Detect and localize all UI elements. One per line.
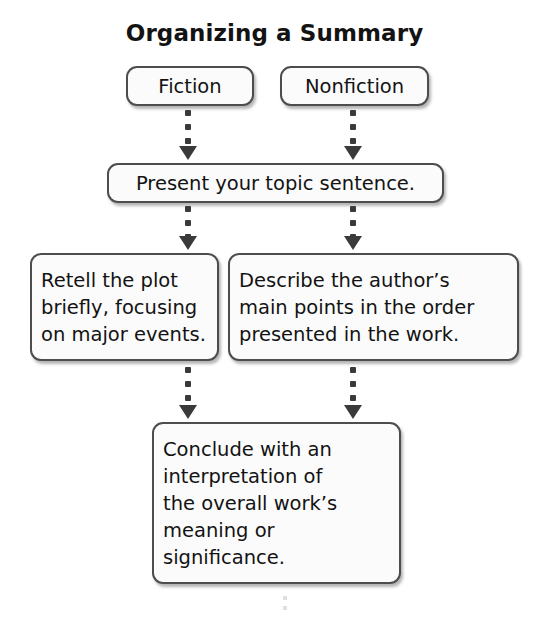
connector-dots	[350, 367, 356, 409]
connector-nonfiction-to-topic	[344, 110, 362, 160]
arrowhead-down-icon	[179, 236, 197, 250]
arrowhead-down-icon	[179, 405, 197, 419]
node-nonfiction: Nonfiction	[280, 66, 429, 106]
node-fiction: Fiction	[126, 66, 254, 106]
node-fiction-label: Fiction	[128, 73, 252, 100]
connector-dot	[185, 138, 191, 144]
connector-describe-to-conclude	[344, 367, 362, 419]
connector-dot	[185, 220, 191, 226]
connector-dot	[350, 110, 356, 116]
arrowhead-down-icon	[344, 236, 362, 250]
connector-dots	[185, 367, 191, 409]
page-title: Organizing a Summary	[0, 20, 549, 46]
connector-dot	[350, 367, 356, 373]
node-conclude: Conclude with an interpretation of the o…	[152, 422, 401, 584]
connector-dot	[350, 124, 356, 130]
node-conclude-label: Conclude with an interpretation of the o…	[154, 436, 346, 571]
connector-dot	[350, 395, 356, 401]
node-topic-sentence-label: Present your topic sentence.	[109, 170, 442, 197]
connector-topic-to-describe	[344, 206, 362, 250]
node-retell-plot-label: Retell the plot briefly, focusing on maj…	[32, 267, 215, 348]
connector-dot	[350, 381, 356, 387]
connector-dot	[350, 206, 356, 212]
node-retell-plot: Retell the plot briefly, focusing on maj…	[30, 253, 219, 361]
node-describe-main-points-label: Describe the author’s main points in the…	[230, 267, 483, 348]
arrowhead-down-icon	[344, 146, 362, 160]
connector-dot	[185, 206, 191, 212]
connector-topic-to-retell	[179, 206, 197, 250]
arrowhead-down-icon	[179, 146, 197, 160]
node-nonfiction-label: Nonfiction	[282, 73, 427, 100]
connector-fiction-to-topic	[179, 110, 197, 160]
connector-dot	[185, 395, 191, 401]
node-describe-main-points: Describe the author’s main points in the…	[228, 253, 519, 361]
arrowhead-down-icon	[344, 405, 362, 419]
flowchart-canvas: Organizing a Summary Fiction Nonfiction …	[0, 0, 549, 622]
connector-dot	[185, 367, 191, 373]
node-topic-sentence: Present your topic sentence.	[107, 163, 444, 203]
connector-dot	[185, 381, 191, 387]
connector-dot	[283, 606, 287, 610]
connector-retell-to-conclude	[179, 367, 197, 419]
connector-dot	[185, 124, 191, 130]
connector-dot	[350, 220, 356, 226]
connector-dot	[185, 110, 191, 116]
connector-dot	[283, 596, 287, 600]
connector-dot	[350, 138, 356, 144]
connector-residual-dots	[283, 596, 289, 616]
